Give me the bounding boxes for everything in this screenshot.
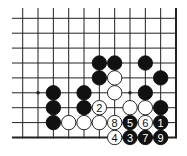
black-stone [46, 86, 60, 100]
white-stone [138, 101, 152, 115]
white-stone [123, 101, 137, 115]
black-stone-move-1: 1 [153, 115, 167, 129]
move-number: 1 [158, 117, 164, 129]
black-stone [153, 71, 167, 85]
black-stone [77, 101, 91, 115]
white-stone-move-4: 4 [107, 130, 121, 144]
black-stone [138, 86, 152, 100]
move-number: 7 [142, 132, 148, 144]
move-number: 5 [127, 117, 133, 129]
black-stone-move-9: 9 [153, 130, 167, 144]
black-stone [92, 56, 106, 70]
go-board: 285614379 [0, 0, 187, 156]
white-stone [92, 115, 106, 129]
white-stone-move-6: 6 [138, 115, 152, 129]
white-stone [107, 71, 121, 85]
black-stone [46, 101, 60, 115]
white-stone [61, 115, 75, 129]
black-stone [107, 56, 121, 70]
move-number: 2 [96, 102, 102, 114]
star-point [128, 91, 132, 95]
black-stone [153, 101, 167, 115]
black-stone [138, 56, 152, 70]
black-stone [77, 86, 91, 100]
star-point [36, 91, 40, 95]
black-stone [92, 71, 106, 85]
move-number: 4 [112, 132, 118, 144]
white-stone [107, 86, 121, 100]
black-stone [46, 115, 60, 129]
move-number: 8 [112, 117, 118, 129]
white-stone [77, 115, 91, 129]
move-number: 6 [142, 117, 148, 129]
black-stone-move-3: 3 [123, 130, 137, 144]
black-stone-move-7: 7 [138, 130, 152, 144]
white-stone-move-2: 2 [92, 101, 106, 115]
move-number: 9 [158, 132, 164, 144]
stones: 285614379 [46, 56, 168, 145]
move-number: 3 [127, 132, 133, 144]
black-stone-move-5: 5 [123, 115, 137, 129]
white-stone-move-8: 8 [107, 115, 121, 129]
